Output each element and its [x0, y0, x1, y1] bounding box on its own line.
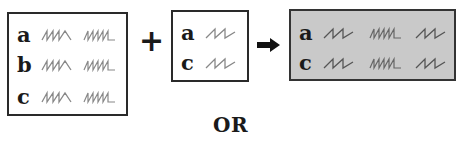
zigzag-long-icon: [369, 26, 403, 40]
result-table-box: a c: [289, 9, 456, 81]
or-label: OR: [213, 113, 248, 137]
zigzag-short-icon: [41, 90, 73, 104]
zigzag-short-icon: [323, 56, 355, 70]
table-row: c: [291, 50, 454, 80]
input-table-box-1: a b c: [7, 12, 128, 116]
input-table-box-2: a c: [171, 10, 249, 82]
plus-operator: +: [139, 26, 164, 56]
row-label: c: [181, 52, 194, 74]
row-label: b: [17, 54, 32, 76]
zigzag-long-icon: [83, 28, 117, 42]
zigzag-short-icon: [323, 26, 355, 40]
table-row: c: [9, 84, 126, 114]
zigzag-short-icon: [205, 56, 237, 70]
table-row: b: [9, 52, 126, 82]
zigzag-short-icon: [205, 26, 237, 40]
zigzag-short-icon: [415, 26, 447, 40]
zigzag-short-icon: [41, 28, 73, 42]
zigzag-short-icon: [415, 56, 447, 70]
table-row: a: [173, 20, 247, 50]
zigzag-long-icon: [83, 58, 117, 72]
table-row: a: [9, 22, 126, 52]
zigzag-long-icon: [369, 56, 403, 70]
row-label: c: [299, 52, 312, 74]
zigzag-long-icon: [83, 90, 117, 104]
zigzag-short-icon: [41, 58, 73, 72]
table-row: c: [173, 50, 247, 80]
row-label: c: [17, 86, 30, 108]
table-row: a: [291, 20, 454, 50]
right-arrow-icon: [257, 38, 281, 52]
row-label: a: [299, 22, 313, 44]
row-label: a: [17, 24, 31, 46]
row-label: a: [181, 22, 195, 44]
